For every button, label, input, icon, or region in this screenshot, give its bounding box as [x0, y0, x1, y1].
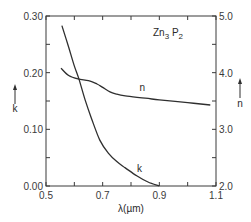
arrowhead-icon [13, 84, 17, 90]
arrowhead-icon [238, 78, 242, 84]
y-right-tick-label: 3.0 [219, 124, 233, 135]
x-axis-title: λ(µm) [118, 203, 144, 214]
series-line-k [62, 26, 159, 186]
y-left-axis-title: k [13, 84, 19, 114]
y-left-tick-label: 0.20 [24, 68, 44, 79]
x-tick-label: 0.9 [152, 190, 166, 201]
chart-title: Zn3 P2 [153, 27, 184, 41]
axis-ticks [46, 16, 216, 186]
y-right-label: n [237, 98, 243, 109]
y-right-tick-label: 2.0 [219, 181, 233, 192]
x-tick-label: 0.7 [96, 190, 110, 201]
plot-frame [46, 16, 216, 186]
series-line-n [61, 68, 210, 105]
plot-border [46, 16, 216, 186]
y-right-tick-label: 4.0 [219, 68, 233, 79]
y-right-tick-label: 5.0 [219, 11, 233, 22]
series-label-k: k [137, 163, 143, 174]
chart: 0.50.70.91.10.000.100.200.302.03.04.05.0… [0, 0, 251, 222]
y-left-label: k [13, 103, 19, 114]
axis-tick-labels: 0.50.70.91.10.000.100.200.302.03.04.05.0 [24, 11, 234, 201]
series-label-n: n [140, 82, 146, 93]
data-series: kn [61, 26, 210, 186]
y-left-tick-label: 0.00 [24, 181, 44, 192]
y-left-tick-label: 0.30 [24, 11, 44, 22]
y-right-axis-title: n [237, 78, 243, 109]
y-left-tick-label: 0.10 [24, 124, 44, 135]
